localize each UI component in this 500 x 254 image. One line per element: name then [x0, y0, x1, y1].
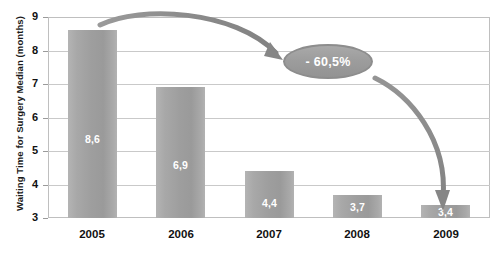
- bar-2009: 3,4: [421, 205, 470, 218]
- y-tick-mark: [43, 185, 48, 186]
- y-tick-label: 7: [16, 78, 38, 89]
- y-tick-label: 5: [16, 145, 38, 156]
- reduction-callout: - 60,5%: [283, 44, 373, 79]
- y-tick-label: 3: [16, 212, 38, 223]
- bar-value-label: 3,4: [421, 206, 470, 218]
- y-tick-mark: [43, 84, 48, 85]
- waiting-time-bar-chart: Waiting Time for Surgery Median (months)…: [0, 0, 500, 254]
- bar-value-label: 4,4: [245, 197, 294, 209]
- y-tick-label: 8: [16, 45, 38, 56]
- x-tick-label-2008: 2008: [314, 228, 400, 240]
- y-tick-label: 9: [16, 11, 38, 22]
- y-tick-mark: [43, 151, 48, 152]
- x-tick-label-2006: 2006: [138, 228, 224, 240]
- y-tick-label: 4: [16, 179, 38, 190]
- bar-value-label: 6,9: [156, 159, 205, 171]
- bar-2006: 6,9: [156, 87, 205, 218]
- bar-2007: 4,4: [245, 171, 294, 218]
- x-tick-label-2009: 2009: [403, 228, 489, 240]
- bar-2005: 8,6: [68, 30, 117, 218]
- bar-2008: 3,7: [333, 195, 382, 218]
- bar-value-label: 8,6: [68, 133, 117, 145]
- x-tick-label-2007: 2007: [226, 228, 312, 240]
- reduction-callout-label: - 60,5%: [305, 55, 350, 69]
- y-tick-mark: [43, 118, 48, 119]
- y-tick-mark: [43, 51, 48, 52]
- y-tick-mark: [43, 218, 48, 219]
- y-tick-mark: [43, 17, 48, 18]
- x-tick-label-2005: 2005: [49, 228, 135, 240]
- y-tick-label: 6: [16, 112, 38, 123]
- bar-value-label: 3,7: [333, 201, 382, 213]
